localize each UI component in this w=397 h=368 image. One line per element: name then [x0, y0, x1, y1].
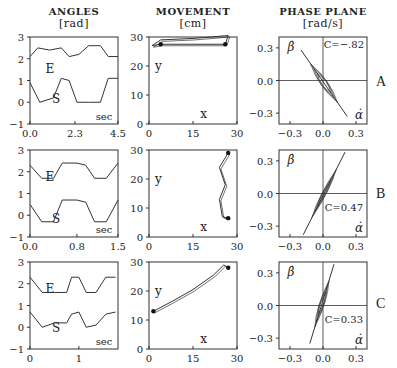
- plot-movement-a: 010203001530yx: [130, 32, 243, 139]
- y-tick-label: 2: [18, 54, 24, 65]
- x-axis-label: x: [200, 107, 207, 121]
- y-tick-label: 1: [18, 76, 24, 87]
- correlation-label: C=0.47: [325, 202, 363, 213]
- beta-dot-label: β̇: [287, 40, 295, 54]
- x-tick-label: 30: [231, 128, 244, 139]
- x-axis-label: sec: [96, 111, 113, 122]
- x-tick-label: 15: [187, 353, 200, 364]
- x-tick-label: 30: [231, 353, 244, 364]
- endpoint-marker: [151, 309, 155, 313]
- plot-phase-b: −0.30.00.3−0.30.00.3β̇α̇C=0.47: [249, 150, 367, 252]
- x-axis-label: x: [200, 332, 207, 346]
- y-tick-label: 30: [130, 257, 143, 268]
- x-tick-label: −0.3: [278, 353, 302, 364]
- endpoint-marker: [223, 42, 227, 46]
- y-tick-label: 3: [18, 32, 24, 43]
- correlation-label: C=0.33: [325, 314, 363, 325]
- y-tick-label: 1: [18, 301, 24, 312]
- x-axis-label: sec: [96, 224, 113, 235]
- series-s: [30, 312, 116, 327]
- x-tick-label: 0: [146, 353, 152, 364]
- x-tick-label: 0.0: [315, 353, 331, 364]
- y-tick-label: 3: [18, 145, 24, 156]
- plots-group: −101230.02.34.5secES010203001530yx−0.30.…: [9, 32, 367, 364]
- y-axis-label: y: [154, 284, 162, 298]
- x-tick-label: 30: [231, 241, 244, 252]
- y-tick-label: 20: [130, 61, 143, 72]
- series-e: [30, 277, 116, 292]
- y-tick-label: 0: [137, 119, 143, 130]
- beta-dot-label: β̇: [287, 153, 295, 167]
- plot-angles-a: −101230.02.34.5secES: [9, 32, 126, 139]
- x-tick-label: −0.3: [278, 128, 302, 139]
- plot-movement-c: 010203001530yx: [130, 257, 243, 364]
- alpha-dot-label: α̇: [355, 333, 363, 347]
- series-label-e: E: [46, 282, 55, 296]
- movement-path: [153, 265, 228, 311]
- x-tick-label: 0.3: [348, 353, 364, 364]
- y-tick-label: 30: [130, 145, 143, 156]
- x-tick-label: 1: [76, 353, 82, 364]
- endpoint-marker: [226, 151, 230, 155]
- plot-phase-c: −0.30.00.3−0.30.00.3β̇α̇C=0.33: [249, 262, 367, 364]
- x-tick-label: 0.0: [22, 128, 38, 139]
- y-tick-label: 0: [18, 210, 24, 221]
- x-axis-label: sec: [96, 336, 113, 347]
- series-s: [30, 78, 118, 102]
- series-label-s: S: [52, 92, 60, 106]
- endpoint-marker: [159, 42, 163, 46]
- x-tick-label: 15: [187, 241, 200, 252]
- y-tick-label: 10: [130, 315, 143, 326]
- series-label-e: E: [46, 62, 55, 76]
- y-tick-label: 0.0: [257, 189, 273, 200]
- y-tick-label: 10: [130, 203, 143, 214]
- alpha-dot-label: α̇: [355, 221, 363, 235]
- y-tick-label: 3: [18, 257, 24, 268]
- beta-dot-label: β̇: [287, 265, 295, 279]
- x-tick-label: 15: [187, 128, 200, 139]
- y-tick-label: 0: [137, 344, 143, 355]
- y-tick-label: 2: [18, 167, 24, 178]
- correlation-label: C=−.82: [324, 39, 364, 50]
- plot-frame: [149, 37, 237, 124]
- series-label-s: S: [52, 321, 60, 335]
- series-e: [30, 46, 118, 57]
- y-tick-label: 30: [130, 32, 143, 43]
- y-tick-label: 0.0: [257, 76, 273, 87]
- y-tick-label: 0: [137, 232, 143, 243]
- x-tick-label: 0: [146, 128, 152, 139]
- y-tick-label: 2: [18, 279, 24, 290]
- plot-phase-a: −0.30.00.3−0.30.00.3β̇α̇C=−.82: [249, 37, 367, 139]
- y-axis-label: y: [154, 59, 162, 73]
- plot-movement-b: 010203001530yx: [130, 145, 243, 252]
- x-tick-label: 1.5: [110, 241, 126, 252]
- y-tick-label: 10: [130, 90, 143, 101]
- y-tick-label: 0.0: [257, 301, 273, 312]
- x-tick-label: 0.3: [348, 128, 364, 139]
- x-tick-label: 0.8: [69, 241, 85, 252]
- y-tick-label: 1: [18, 189, 24, 200]
- series-s: [30, 200, 118, 222]
- x-tick-label: 0.0: [315, 128, 331, 139]
- y-tick-label: 0.3: [257, 156, 273, 167]
- y-tick-label: −0.3: [249, 333, 273, 344]
- y-axis-label: y: [154, 172, 162, 186]
- plot-frame: [149, 262, 237, 349]
- y-tick-label: 20: [130, 174, 143, 185]
- regression-line: [310, 264, 334, 343]
- regression-line: [301, 50, 347, 116]
- endpoint-marker: [226, 266, 230, 270]
- x-tick-label: 0: [146, 241, 152, 252]
- y-tick-label: 0.3: [257, 43, 273, 54]
- x-tick-label: 0.0: [315, 241, 331, 252]
- series-label-e: E: [46, 170, 55, 184]
- figure: −101230.02.34.5secES010203001530yx−0.30.…: [0, 0, 397, 368]
- y-tick-label: −0.3: [249, 108, 273, 119]
- x-tick-label: 4.5: [110, 128, 126, 139]
- endpoint-marker: [226, 216, 230, 220]
- y-tick-label: −1: [9, 344, 24, 355]
- y-tick-label: 20: [130, 286, 143, 297]
- x-tick-label: 2.3: [67, 128, 83, 139]
- y-tick-label: 0: [18, 322, 24, 333]
- plot-angles-b: −101230.00.81.5secES: [9, 145, 126, 252]
